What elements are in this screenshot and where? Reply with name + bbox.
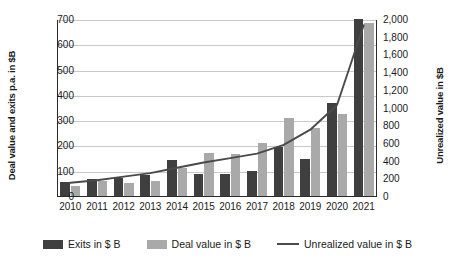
y-axis-right-tick-label: 1,600 xyxy=(383,50,408,60)
y-axis-right-tick-label: 400 xyxy=(383,157,400,167)
legend-item[interactable]: Unrealized value in $ B xyxy=(277,238,412,250)
legend-swatch-unrealized-line xyxy=(277,243,299,245)
chart-container: Deal value and exits p.a. in $B Unrealiz… xyxy=(0,0,455,264)
legend-swatch-deal-value xyxy=(147,240,167,249)
plot-area xyxy=(57,20,377,197)
y-axis-left-tick-label: 400 xyxy=(57,91,74,101)
legend-item[interactable]: Exits in $ B xyxy=(43,238,121,250)
y-axis-right-tick-label: 0 xyxy=(383,192,389,202)
y-axis-right-tick-label: 200 xyxy=(383,174,400,184)
x-axis-tick-label: 2021 xyxy=(348,202,380,212)
y-axis-right-tick-label: 1,000 xyxy=(383,104,408,114)
unrealized-value-line xyxy=(57,20,377,197)
x-axis-line xyxy=(57,196,377,197)
y-axis-right-tick-label: 800 xyxy=(383,121,400,131)
y-axis-right-tick-label: 600 xyxy=(383,139,400,149)
legend-swatch-exits xyxy=(43,240,63,249)
legend-item-label: Exits in $ B xyxy=(68,238,121,250)
y-axis-right-title: Unrealized value in $B xyxy=(434,51,445,181)
chart-legend: Exits in $ BDeal value in $ BUnrealized … xyxy=(0,238,455,250)
y-axis-left-tick-label: 100 xyxy=(57,167,74,177)
y-axis-right-line xyxy=(376,20,377,197)
legend-item[interactable]: Deal value in $ B xyxy=(147,238,251,250)
y-axis-left-tick-label: 200 xyxy=(57,141,74,151)
y-axis-left-title: Deal value and exits p.a. in $B xyxy=(6,51,17,181)
y-axis-left-tick-label: 700 xyxy=(57,15,74,25)
y-axis-left-tick-label: 500 xyxy=(57,66,74,76)
legend-item-label: Deal value in $ B xyxy=(172,238,251,250)
y-axis-right-tick-label: 1,800 xyxy=(383,33,408,43)
y-axis-right-tick-label: 1,200 xyxy=(383,86,408,96)
y-axis-left-tick-label: 600 xyxy=(57,40,74,50)
y-axis-left-tick-label: 300 xyxy=(57,116,74,126)
y-axis-right-tick-label: 2,000 xyxy=(383,15,408,25)
y-axis-right-tick-label: 1,400 xyxy=(383,68,408,78)
legend-item-label: Unrealized value in $ B xyxy=(304,238,412,250)
